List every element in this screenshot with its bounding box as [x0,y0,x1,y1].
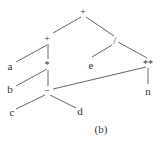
edge-root-leftplus [53,17,81,33]
node-b: b [7,83,13,95]
tree-edges [16,17,148,109]
node-e: e [89,59,94,71]
node-n: n [145,85,151,97]
node-c: c [10,106,15,118]
edge-minus-d [50,95,76,108]
edge-leftplus-a [16,45,47,62]
node-pow: ** [143,58,153,69]
tree-nodes: + + / a * e ** b − n c d [7,6,153,118]
node-mul: * [45,59,50,70]
edge-minus-c [16,95,45,109]
node-minus: − [44,85,50,96]
node-div: / [114,35,117,46]
expression-tree-diagram: + + / a * e ** b − n c d (b) [0,0,164,148]
edge-div-e [92,45,112,57]
edge-mul-b [16,69,47,86]
edge-pow-minus [53,67,146,89]
node-a: a [8,60,13,72]
node-root-plus: + [80,6,86,17]
figure-caption: (b) [95,123,108,136]
edge-div-pow [118,42,147,58]
node-left-plus: + [44,33,50,44]
edge-root-div [86,17,114,36]
node-d: d [77,105,83,117]
